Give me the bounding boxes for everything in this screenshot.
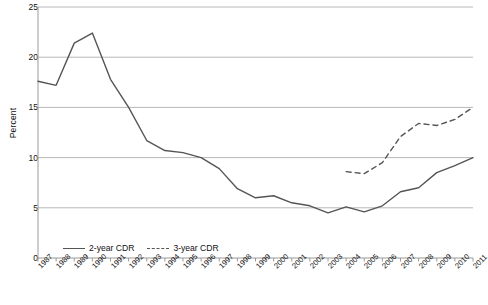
axis-lines: [38, 7, 473, 258]
series-line-2-year-cdr: [38, 33, 473, 213]
legend-item-2-year-cdr: 2-year CDR: [63, 243, 134, 253]
legend-swatch-solid-icon: [63, 248, 85, 249]
gridlines: [38, 7, 473, 208]
chart-legend: 2-year CDR 3-year CDR: [63, 243, 219, 253]
legend-label-2-year-cdr: 2-year CDR: [89, 243, 134, 253]
series-lines: [38, 33, 473, 213]
chart-container: Percent 25 20 15 10 5 0 1987198819891990…: [0, 0, 488, 305]
legend-swatch-dashed-icon: [147, 248, 169, 249]
footer-strip: [0, 296, 488, 305]
legend-item-3-year-cdr: 3-year CDR: [147, 243, 218, 253]
series-line-3-year-cdr: [346, 107, 473, 173]
legend-label-3-year-cdr: 3-year CDR: [173, 243, 218, 253]
